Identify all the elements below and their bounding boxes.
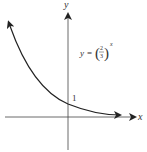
svg-text:2: 2: [100, 45, 103, 51]
y-intercept-label: 1: [72, 93, 77, 103]
svg-text:): ): [104, 45, 109, 62]
graph-canvas: y x 1 y = ( 2 3 ) x: [0, 0, 147, 152]
svg-text:3: 3: [100, 53, 103, 59]
svg-text:y: y: [79, 48, 84, 58]
exponential-curve: [10, 26, 120, 115]
x-axis-label: x: [137, 111, 143, 122]
equation-label: y = ( 2 3 ) x: [79, 41, 113, 62]
svg-text:=: =: [87, 48, 92, 58]
svg-text:x: x: [109, 41, 113, 47]
y-axis-label: y: [63, 0, 69, 10]
